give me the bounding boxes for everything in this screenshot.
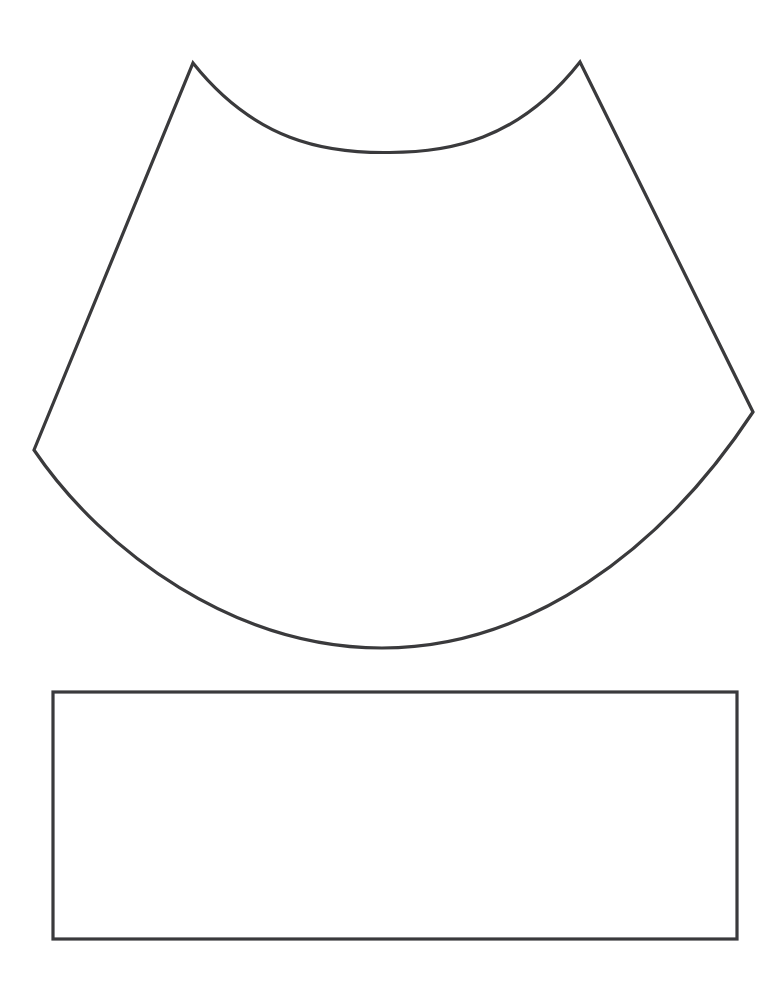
pattern-canvas (0, 0, 765, 991)
rectangular-band-piece-shape (53, 692, 737, 939)
pattern-template-page (0, 0, 765, 991)
